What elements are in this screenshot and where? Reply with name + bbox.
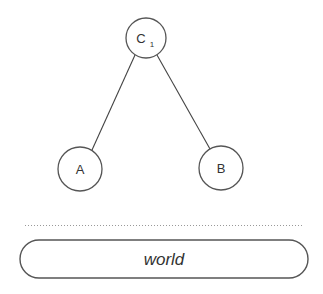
edge-c1-a xyxy=(92,55,135,150)
edge-c1-b xyxy=(157,55,210,149)
world-box: world xyxy=(20,240,308,278)
world-label: world xyxy=(144,250,185,269)
node-c1: C 1 xyxy=(126,18,166,58)
node-b: B xyxy=(199,146,243,190)
node-c1-label: C xyxy=(136,31,145,46)
node-c1-subscript: 1 xyxy=(150,40,155,49)
tree-diagram: C 1 A B world xyxy=(0,0,323,294)
node-a: A xyxy=(58,147,102,191)
node-b-label: B xyxy=(217,161,226,176)
node-a-label: A xyxy=(76,162,85,177)
